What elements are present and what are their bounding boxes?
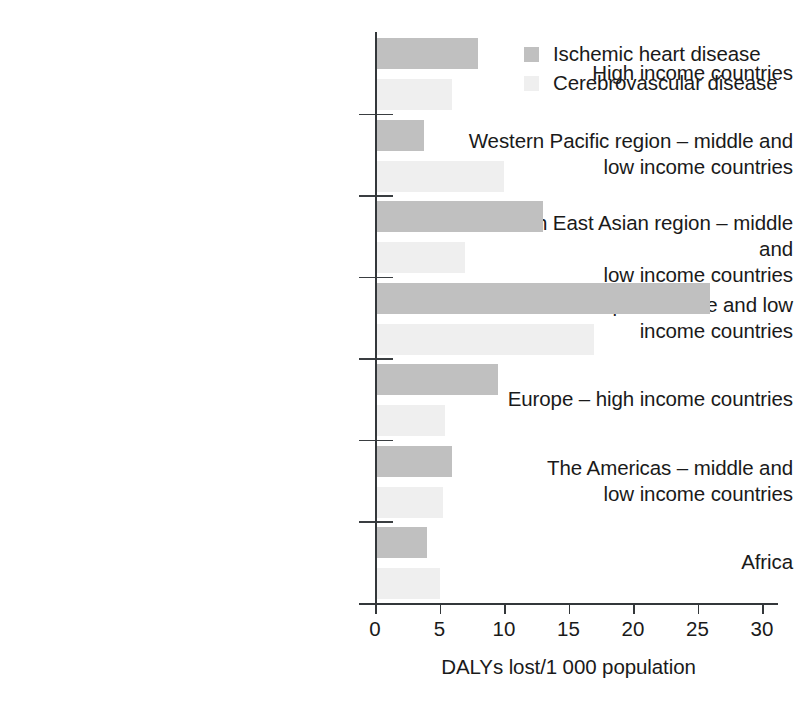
x-tick-25: [698, 603, 700, 614]
bar-cerebrovascular-4: [375, 405, 445, 436]
bar-ischemic-2: [375, 201, 543, 232]
bar-ischemic-5: [375, 446, 452, 477]
category-label-5: The Americas – middle andlow income coun…: [459, 455, 811, 507]
bar-cerebrovascular-2: [375, 242, 465, 273]
x-tick-0: [375, 603, 377, 614]
x-tick-20: [633, 603, 635, 614]
category-label-6: Africa: [459, 549, 811, 575]
x-tick-label-20: 20: [622, 617, 645, 641]
bar-cerebrovascular-6: [375, 568, 440, 599]
x-tick-label-10: 10: [493, 617, 516, 641]
bar-ischemic-4: [375, 364, 498, 395]
bar-cerebrovascular-1: [375, 161, 504, 192]
x-tick-label-25: 25: [686, 617, 709, 641]
x-tick-10: [504, 603, 506, 614]
x-tick-label-30: 30: [751, 617, 774, 641]
bar-ischemic-0: [375, 38, 478, 69]
category-label-0: High income countries: [459, 60, 811, 86]
x-axis-title: DALYs lost/1 000 population: [375, 655, 762, 679]
bar-cerebrovascular-0: [375, 79, 452, 110]
bar-cerebrovascular-3: [375, 324, 594, 355]
x-tick-15: [569, 603, 571, 614]
x-tick-30: [762, 603, 764, 614]
category-label-4: Europe – high income countries: [459, 386, 811, 412]
bar-chart: Ischemic heart disease Cerebrovascular d…: [0, 0, 811, 711]
x-tick-5: [440, 603, 442, 614]
bar-ischemic-3: [375, 283, 710, 314]
y-axis-line: [375, 32, 377, 604]
x-tick-label-15: 15: [557, 617, 580, 641]
category-label-1: Western Pacific region – middle andlow i…: [459, 128, 811, 180]
x-tick-label-0: 0: [369, 617, 380, 641]
bar-cerebrovascular-5: [375, 487, 443, 518]
bar-ischemic-6: [375, 527, 427, 558]
x-tick-label-5: 5: [434, 617, 445, 641]
bar-ischemic-1: [375, 120, 424, 151]
